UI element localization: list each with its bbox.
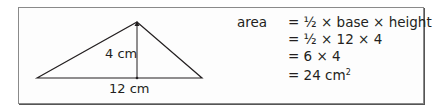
foot-marker <box>136 77 139 80</box>
area-term: area <box>237 14 267 30</box>
height-label: 4 cm <box>105 47 137 61</box>
calc-line-4: = 24 cm2 <box>288 65 351 83</box>
unit-exponent: 2 <box>346 68 351 77</box>
calc-line-2: = ½ × 12 × 4 <box>288 31 382 47</box>
calc-line-1: = ½ × base × height <box>288 14 432 30</box>
calc-line-3: = 6 × 4 <box>288 48 341 64</box>
base-label: 12 cm <box>109 82 150 96</box>
result-text: = 24 cm <box>288 67 346 83</box>
